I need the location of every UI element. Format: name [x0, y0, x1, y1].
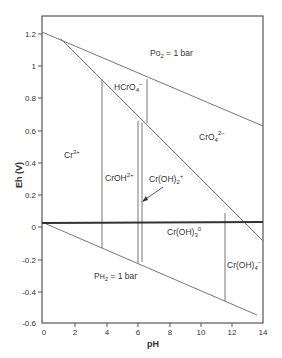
label-cr3: Cr3+ [64, 149, 80, 160]
x-tick: 0 [42, 328, 47, 337]
y-tick: 0.6 [25, 127, 37, 136]
o2-water-line [42, 32, 263, 126]
label-croh3: Cr(OH)30 [167, 226, 202, 238]
x-tick: 10 [197, 328, 206, 337]
plot-frame [42, 16, 263, 323]
label-croh2: CrOH2+ [105, 172, 134, 183]
label-ph2: PH2 = 1 bar [94, 271, 137, 282]
x-tick: 12 [228, 328, 237, 337]
x-tick-labels: 0 2 4 6 8 10 12 14 [42, 328, 268, 337]
y-tick: -0.4 [22, 288, 36, 297]
y-tick: 0.2 [25, 191, 37, 200]
bold-boundary-line [42, 222, 263, 223]
y-axis-title: Eh (V) [14, 162, 24, 188]
x-axis-title: pH [147, 339, 159, 349]
y-tick: 0.8 [25, 94, 37, 103]
x-tick: 14 [259, 328, 268, 337]
y-tick: 0.4 [25, 159, 37, 168]
y-tick: 1.2 [25, 30, 37, 39]
x-tick: 4 [105, 328, 110, 337]
y-tick: -0.2 [22, 256, 36, 265]
y-tick: -0.6 [22, 319, 36, 328]
redox-diagonal-line [61, 39, 263, 241]
x-tick: 8 [168, 328, 173, 337]
label-hcro4: HCrO4− [114, 81, 143, 93]
pourbaix-diagram: 1.2 1 0.8 0.6 0.4 0.2 0 -0.2 -0.4 -0.6 0… [0, 0, 282, 358]
arrow-icon [142, 187, 163, 202]
y-tick: 0 [32, 223, 37, 232]
label-croh4: Cr(OH)4− [227, 259, 262, 271]
y-tick-labels: 1.2 1 0.8 0.6 0.4 0.2 0 -0.2 -0.4 -0.6 [22, 30, 36, 328]
label-po2: Po2 = 1 bar [150, 48, 193, 59]
label-croh2plus: Cr(OH)2+ [149, 173, 184, 185]
x-tick: 2 [73, 328, 78, 337]
y-tick: 1 [32, 62, 37, 71]
x-tick: 6 [136, 328, 141, 337]
label-cro4: CrO42− [199, 130, 225, 143]
